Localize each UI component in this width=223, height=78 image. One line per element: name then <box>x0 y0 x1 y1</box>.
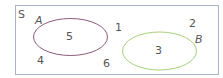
set-a-label: A <box>35 15 43 26</box>
outside-element-1: 1 <box>115 22 122 33</box>
outside-element-6: 6 <box>103 58 110 69</box>
outside-element-2: 2 <box>189 18 196 29</box>
universe-rect <box>16 6 219 75</box>
universe-label: S <box>18 9 25 20</box>
venn-diagram <box>0 0 223 78</box>
outside-element-4: 4 <box>37 55 44 66</box>
set-a-element: 5 <box>66 31 73 42</box>
set-b-element: 3 <box>155 45 162 56</box>
set-b-label: B <box>195 34 203 45</box>
